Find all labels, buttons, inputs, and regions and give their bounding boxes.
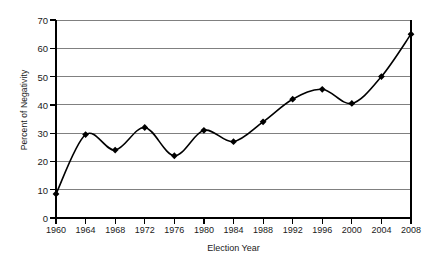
data-point-1992 xyxy=(289,96,296,103)
y-axis-ticks xyxy=(50,20,56,218)
data-point-1960 xyxy=(53,191,60,198)
data-series-line xyxy=(56,34,411,194)
data-point-1996 xyxy=(319,86,326,93)
negativity-line-chart: 70 60 50 40 30 20 10 0 xyxy=(0,0,426,265)
x-axis-ticks xyxy=(56,218,411,224)
data-point-1968 xyxy=(112,147,119,154)
plot-frame xyxy=(56,20,411,218)
gridlines xyxy=(56,20,411,190)
data-point-2000 xyxy=(348,100,355,107)
data-point-1976 xyxy=(171,152,178,159)
x-axis-title: Election Year xyxy=(56,243,411,253)
data-point-markers xyxy=(53,31,415,198)
data-point-1984 xyxy=(230,138,237,145)
y-axis-title: Percent of Negativity xyxy=(19,30,29,190)
data-point-1972 xyxy=(141,124,148,131)
x-tick-label: 2008 xyxy=(391,225,426,235)
